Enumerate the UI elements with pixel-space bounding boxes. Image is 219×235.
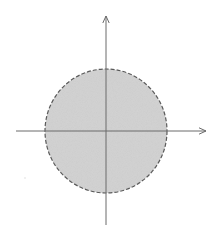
diagram-canvas [0, 0, 219, 235]
disk-diagram [0, 0, 219, 235]
scan-speck [24, 177, 26, 179]
